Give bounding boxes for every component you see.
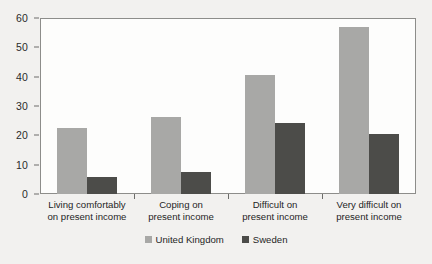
bar-sweden	[369, 134, 399, 194]
bar-groups	[40, 18, 416, 194]
y-tick-label: 40	[16, 71, 28, 83]
y-tick-mark	[34, 164, 39, 165]
bar-united-kingdom	[151, 117, 181, 194]
y-tick-mark	[34, 47, 39, 48]
bar-united-kingdom	[339, 27, 369, 194]
y-tick-label: 20	[16, 129, 28, 141]
y-tick-label: 0	[22, 188, 28, 200]
y-tick-mark	[34, 135, 39, 136]
legend-swatch-icon	[145, 236, 152, 243]
x-axis-category-labels: Living comfortablyon present incomeCopin…	[40, 199, 416, 223]
x-axis-label-line: on present income	[42, 211, 132, 223]
x-axis-label: Living comfortablyon present income	[40, 199, 134, 223]
bar-group	[134, 18, 228, 194]
x-axis-label: Very difficult onpresent income	[322, 199, 416, 223]
bar-united-kingdom	[57, 128, 87, 194]
x-axis-label-line: Living comfortably	[42, 199, 132, 211]
x-axis-label-line: Coping on	[136, 199, 226, 211]
x-axis-label: Coping onpresent income	[134, 199, 228, 223]
x-axis-label-line: Very difficult on	[324, 199, 414, 211]
y-tick-label: 10	[16, 159, 28, 171]
bar-sweden	[87, 177, 117, 194]
y-tick-label: 50	[16, 41, 28, 53]
legend-label: Sweden	[253, 234, 288, 245]
y-tick-mark	[34, 18, 39, 19]
x-axis-label-line: present income	[230, 211, 320, 223]
y-tick-mark	[34, 76, 39, 77]
x-axis-label-line: Difficult on	[230, 199, 320, 211]
y-axis: 0102030405060	[0, 18, 34, 194]
bar-group	[228, 18, 322, 194]
grouped-bar-chart: 0102030405060 Living comfortablyon prese…	[0, 0, 432, 264]
legend-item[interactable]: Sweden	[242, 234, 288, 245]
bar-sweden	[275, 123, 305, 194]
x-axis-label-line: present income	[324, 211, 414, 223]
legend-swatch-icon	[242, 236, 249, 243]
y-tick-label: 60	[16, 12, 28, 24]
legend-label: United Kingdom	[156, 234, 224, 245]
y-tick-mark	[34, 106, 39, 107]
x-axis-label: Difficult onpresent income	[228, 199, 322, 223]
bar-sweden	[181, 172, 211, 194]
bar-united-kingdom	[245, 75, 275, 194]
y-tick-label: 30	[16, 100, 28, 112]
bar-group	[40, 18, 134, 194]
y-tick-mark	[34, 194, 39, 195]
bar-group	[322, 18, 416, 194]
chart-legend: United KingdomSweden	[0, 234, 432, 245]
x-axis-label-line: present income	[136, 211, 226, 223]
legend-item[interactable]: United Kingdom	[145, 234, 224, 245]
